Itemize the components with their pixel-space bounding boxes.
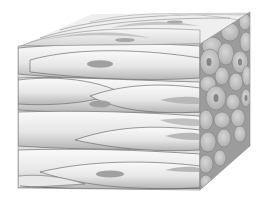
tissue-block-svg	[0, 0, 268, 203]
tissue-illustration	[0, 0, 268, 203]
front-face	[18, 44, 202, 192]
